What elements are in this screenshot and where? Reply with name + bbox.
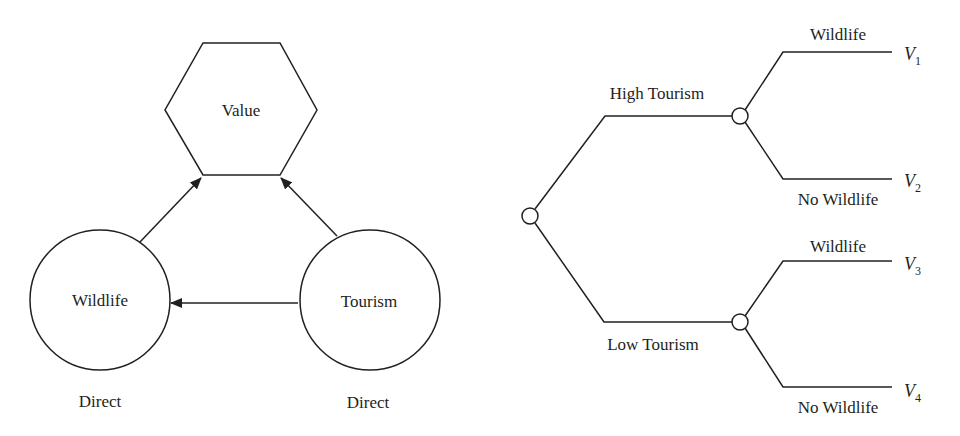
value-node[interactable]: Value (165, 43, 317, 175)
outcome-label-3: Wildlife (810, 237, 866, 256)
branch-low-wildlife (745, 261, 892, 316)
branch-high-no-wildlife (745, 122, 892, 179)
arc-tourism-to-value (281, 178, 337, 236)
branch-low-no-wildlife (745, 328, 892, 387)
wildlife-node-label: Wildlife (72, 291, 128, 310)
tourism-node-label: Tourism (341, 292, 397, 311)
low-tourism-label: Low Tourism (607, 335, 699, 354)
branch-high-tourism (535, 116, 735, 209)
value-v4: V4 (904, 381, 921, 405)
wildlife-node[interactable]: Wildlife (30, 230, 170, 370)
influence-diagram: Value Wildlife Tourism Direct Direct (30, 43, 440, 412)
high-tourism-chance-node[interactable] (732, 108, 748, 124)
outcome-label-2: No Wildlife (798, 190, 879, 209)
arc-wildlife-to-value (140, 178, 201, 242)
branch-low-tourism (535, 223, 735, 322)
low-tourism-chance-node[interactable] (732, 314, 748, 330)
branch-high-wildlife (745, 52, 892, 110)
root-chance-node[interactable] (522, 208, 538, 224)
outcome-label-1: Wildlife (810, 25, 866, 44)
decision-tree (522, 52, 892, 387)
tourism-direct-label: Direct (347, 393, 390, 412)
tourism-node[interactable]: Tourism (300, 230, 440, 370)
value-node-label: Value (222, 101, 261, 120)
value-v3: V3 (904, 254, 921, 278)
value-v2: V2 (904, 171, 921, 195)
outcome-label-4: No Wildlife (798, 398, 879, 417)
value-v1: V1 (904, 44, 921, 68)
wildlife-direct-label: Direct (79, 392, 122, 411)
diagram-canvas: Value Wildlife Tourism Direct Direct Hig (0, 0, 960, 436)
high-tourism-label: High Tourism (610, 84, 704, 103)
